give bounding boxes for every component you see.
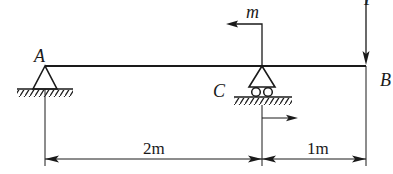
label-m: m: [246, 3, 259, 21]
moment-arrow-icon: [226, 21, 262, 67]
label-a: A: [34, 47, 45, 65]
force-arrow-icon: [363, 0, 370, 65]
dimension-label-cb: 1m: [307, 140, 329, 157]
dimension-label-ac: 2m: [143, 140, 165, 157]
label-p: P: [364, 0, 375, 8]
label-c: C: [213, 82, 225, 100]
roller-direction-arrow-icon: [262, 115, 298, 121]
label-b: B: [380, 71, 391, 89]
roller-support-c-icon: [234, 66, 292, 105]
beam-diagram: A C B m P 2m 1m: [0, 0, 393, 174]
